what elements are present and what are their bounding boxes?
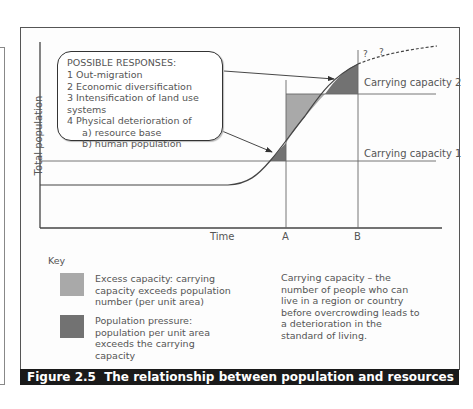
population-pressure-swatch [60,315,84,338]
uncertain-mark-2: ? [379,46,384,58]
uncertain-mark-1: ? [363,48,368,60]
figure-caption-bar: Figure 2.5 The relationship between popu… [20,369,459,385]
list-item: 1 Out-migration [67,69,222,81]
y-axis-label: Total population [33,86,44,186]
x-axis-label: Time [210,231,234,243]
cc2-label: Carrying capacity 2 [364,77,461,89]
excess-capacity-label: Excess capacity: carrying capacity excee… [95,273,235,308]
possible-responses-callout: POSSIBLE RESPONSES: 1 Out-migration 2 Ec… [57,51,223,141]
list-item: 3 Intensification of land use systems [67,92,222,115]
excess-capacity-area [286,94,325,143]
cc1-label: Carrying capacity 1 [364,148,461,160]
figure-caption: The relationship between population and … [104,370,454,384]
responses-list: 1 Out-migration 2 Economic diversificati… [67,69,222,150]
excess-capacity-swatch [60,273,84,296]
callout-title: POSSIBLE RESPONSES: [67,57,176,68]
list-item: 2 Economic diversification [67,81,222,93]
carrying-capacity-definition: Carrying capacity – the number of people… [281,272,426,341]
population-pressure-label: Population pressure: population per unit… [95,315,235,361]
marker-b: B [354,231,361,243]
list-item: b) human population [67,138,222,150]
figure-number: Figure 2.5 [27,370,96,384]
list-item: 4 Physical deterioration of [67,115,222,127]
list-item: a) resource base [67,127,222,139]
key-title: Key [48,255,65,267]
marker-a: A [282,231,289,243]
